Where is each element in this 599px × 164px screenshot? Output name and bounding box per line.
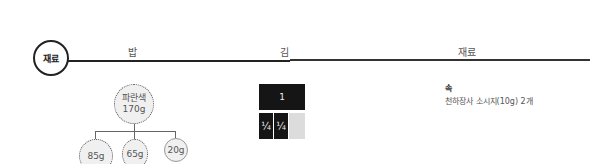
rice-portion-circle: 65g [122, 139, 148, 164]
tree-branch [95, 131, 175, 132]
nori-full-sheet: 1 [259, 84, 305, 110]
nori-quarter-label: ¼ [276, 121, 286, 132]
nori-quarter-label: ¼ [261, 121, 271, 132]
rice-main-circle: 파란색 170g [114, 84, 154, 124]
badge-label: 재료 [43, 52, 59, 65]
nori-quarter-sheet: ¼ [259, 113, 273, 139]
nori-empty-slot [289, 113, 305, 139]
ingredients-badge: 재료 [33, 40, 69, 76]
rice-portion-amount: 20g [167, 145, 184, 156]
nori-full-label: 1 [279, 92, 285, 102]
rice-portion-amount: 65g [126, 149, 143, 160]
rice-main-name: 파란색 [122, 93, 146, 104]
filling-item: 천하장사 소시지(10g) 2개 [445, 95, 533, 106]
tree-leg-1 [95, 131, 96, 139]
rice-portion-amount: 85g [87, 151, 104, 162]
rice-main-amount: 170g [123, 104, 146, 115]
tree-leg-3 [175, 131, 176, 138]
tree-leg-2 [134, 131, 135, 139]
rice-portion-circle: 85g [79, 139, 113, 164]
column-header-nori: 김 [280, 44, 289, 59]
column-header-rice: 밥 [128, 44, 137, 59]
column-header-ingredients: 재료 [458, 44, 476, 59]
header-divider [68, 60, 290, 62]
header-divider-right [290, 59, 590, 61]
rice-portion-circle: 20g [164, 138, 188, 162]
filling-title: 속 [445, 82, 452, 93]
nori-quarter-sheet: ¼ [274, 113, 288, 139]
